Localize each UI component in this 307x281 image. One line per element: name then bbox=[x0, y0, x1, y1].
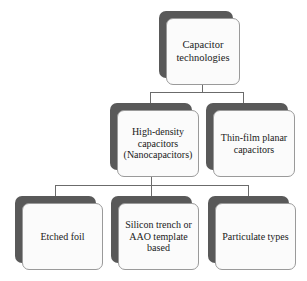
node-face: Etched foil bbox=[22, 203, 103, 270]
node-etched-foil[interactable]: Etched foil bbox=[15, 196, 96, 263]
node-label: High-density capacitors (Nanocapacitors) bbox=[124, 126, 193, 161]
node-face: Silicon trench or AAO template based bbox=[118, 203, 199, 270]
node-capacitor-technologies[interactable]: Capacitor technologies bbox=[159, 11, 233, 78]
node-thin-film-planar-capacitors[interactable]: Thin-film planar capacitors bbox=[206, 103, 288, 170]
node-high-density-capacitors[interactable]: High-density capacitors (Nanocapacitors) bbox=[110, 103, 192, 170]
node-particulate-types[interactable]: Particulate types bbox=[208, 196, 289, 263]
connector-to-thin-film bbox=[243, 92, 244, 103]
node-silicon-trench-aao-template[interactable]: Silicon trench or AAO template based bbox=[111, 196, 192, 263]
node-label: Thin-film planar capacitors bbox=[221, 132, 287, 156]
connector-to-particulate bbox=[248, 185, 249, 196]
node-face: Particulate types bbox=[215, 203, 296, 270]
connector-to-silicon-trench bbox=[151, 185, 152, 196]
node-face: Capacitor technologies bbox=[166, 18, 240, 85]
capacitor-technologies-diagram: Capacitor technologies High-density capa… bbox=[0, 0, 307, 281]
connector-to-high-density bbox=[150, 92, 151, 103]
node-face: High-density capacitors (Nanocapacitors) bbox=[117, 110, 199, 177]
connector-to-etched-foil bbox=[55, 185, 56, 196]
node-face: Thin-film planar capacitors bbox=[213, 110, 295, 177]
node-label: Etched foil bbox=[40, 231, 84, 243]
connector-level1-bus bbox=[150, 92, 244, 93]
node-label: Silicon trench or AAO template based bbox=[125, 219, 192, 254]
node-label: Particulate types bbox=[222, 231, 288, 243]
node-label: Capacitor technologies bbox=[176, 39, 229, 64]
connector-level2-bus bbox=[55, 185, 249, 186]
